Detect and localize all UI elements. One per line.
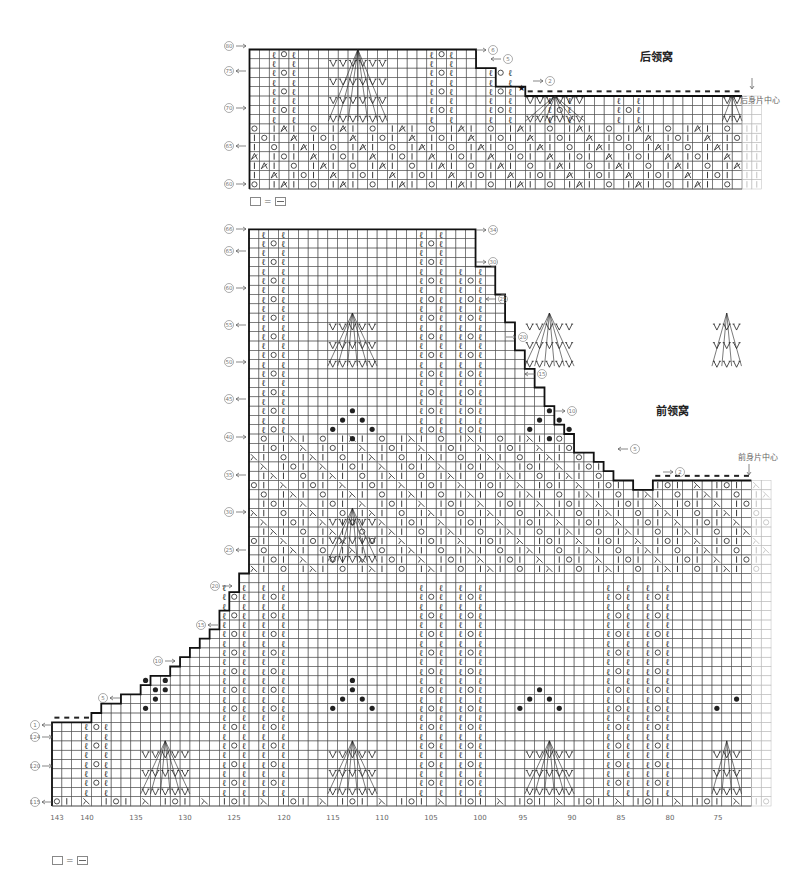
- svg-text:ℓ: ℓ: [489, 78, 493, 88]
- svg-text:ℓ: ℓ: [459, 313, 463, 323]
- svg-text:ℓ: ℓ: [84, 760, 88, 770]
- svg-text:ℓ: ℓ: [478, 676, 482, 686]
- svg-text:ℓ: ℓ: [419, 713, 423, 723]
- svg-text:ℓ: ℓ: [419, 741, 423, 751]
- svg-text:ℓ: ℓ: [439, 685, 443, 695]
- svg-text:ℓ: ℓ: [449, 59, 453, 69]
- svg-text:ℓ: ℓ: [478, 760, 482, 770]
- svg-text:ℓ: ℓ: [222, 657, 226, 667]
- svg-text:ℓ: ℓ: [419, 676, 423, 686]
- svg-text:ℓ: ℓ: [242, 657, 246, 667]
- svg-text:ℓ: ℓ: [459, 676, 463, 686]
- svg-text:ℓ: ℓ: [272, 115, 276, 125]
- svg-text:ℓ: ℓ: [281, 592, 285, 602]
- svg-text:ℓ: ℓ: [84, 778, 88, 788]
- svg-text:ℓ: ℓ: [281, 713, 285, 723]
- svg-text:ℓ: ℓ: [242, 788, 246, 798]
- svg-text:ℓ: ℓ: [84, 722, 88, 732]
- svg-text:ℓ: ℓ: [419, 667, 423, 677]
- svg-text:ℓ: ℓ: [419, 332, 423, 342]
- svg-text:ℓ: ℓ: [262, 713, 266, 723]
- svg-text:ℓ: ℓ: [419, 360, 423, 370]
- svg-text:135: 135: [129, 814, 142, 822]
- svg-text:ℓ: ℓ: [281, 369, 285, 379]
- svg-text:ℓ: ℓ: [626, 741, 630, 751]
- svg-text:ℓ: ℓ: [281, 341, 285, 351]
- svg-text:ℓ: ℓ: [459, 760, 463, 770]
- svg-text:ℓ: ℓ: [478, 629, 482, 639]
- svg-text:124: 124: [30, 734, 41, 740]
- svg-text:ℓ: ℓ: [272, 50, 276, 60]
- svg-text:ℓ: ℓ: [459, 620, 463, 630]
- svg-text:ℓ: ℓ: [292, 105, 296, 115]
- svg-text:ℓ: ℓ: [646, 629, 650, 639]
- svg-text:55: 55: [226, 322, 233, 328]
- svg-text:ℓ: ℓ: [439, 788, 443, 798]
- svg-text:65: 65: [226, 143, 233, 149]
- svg-text:ℓ: ℓ: [419, 388, 423, 398]
- svg-text:ℓ: ℓ: [606, 713, 610, 723]
- svg-text:ℓ: ℓ: [262, 378, 266, 388]
- svg-text:ℓ: ℓ: [478, 304, 482, 314]
- svg-text:ℓ: ℓ: [626, 611, 630, 621]
- svg-text:ℓ: ℓ: [281, 425, 285, 435]
- back-center-label: 后身片中心: [740, 94, 780, 105]
- svg-text:ℓ: ℓ: [281, 388, 285, 398]
- svg-text:ℓ: ℓ: [439, 732, 443, 742]
- svg-text:ℓ: ℓ: [419, 369, 423, 379]
- svg-text:ℓ: ℓ: [449, 68, 453, 78]
- svg-text:ℓ: ℓ: [459, 778, 463, 788]
- svg-text:ℓ: ℓ: [281, 732, 285, 742]
- svg-text:ℓ: ℓ: [281, 648, 285, 658]
- legend-equals: =: [66, 855, 74, 865]
- svg-text:ℓ: ℓ: [419, 769, 423, 779]
- svg-text:ℓ: ℓ: [646, 620, 650, 630]
- svg-text:ℓ: ℓ: [104, 750, 108, 760]
- svg-text:ℓ: ℓ: [439, 360, 443, 370]
- svg-text:ℓ: ℓ: [222, 760, 226, 770]
- svg-text:ℓ: ℓ: [449, 78, 453, 88]
- svg-text:ℓ: ℓ: [222, 778, 226, 788]
- svg-text:140: 140: [80, 814, 93, 822]
- svg-text:ℓ: ℓ: [626, 695, 630, 705]
- svg-text:ℓ: ℓ: [665, 629, 669, 639]
- svg-text:ℓ: ℓ: [478, 769, 482, 779]
- svg-text:ℓ: ℓ: [419, 267, 423, 277]
- svg-text:ℓ: ℓ: [281, 676, 285, 686]
- svg-text:ℓ: ℓ: [478, 397, 482, 407]
- svg-text:ℓ: ℓ: [646, 695, 650, 705]
- svg-text:ℓ: ℓ: [665, 695, 669, 705]
- svg-text:ℓ: ℓ: [281, 360, 285, 370]
- svg-text:ℓ: ℓ: [459, 592, 463, 602]
- svg-text:ℓ: ℓ: [459, 285, 463, 295]
- svg-text:ℓ: ℓ: [419, 285, 423, 295]
- svg-text:ℓ: ℓ: [449, 105, 453, 115]
- svg-text:65: 65: [226, 248, 233, 254]
- svg-text:75: 75: [226, 68, 233, 74]
- svg-text:105: 105: [424, 814, 437, 822]
- legend-equals: =: [264, 196, 272, 206]
- svg-text:ℓ: ℓ: [419, 313, 423, 323]
- svg-text:ℓ: ℓ: [606, 592, 610, 602]
- svg-text:20: 20: [212, 583, 219, 589]
- svg-text:ℓ: ℓ: [242, 778, 246, 788]
- svg-text:10: 10: [569, 408, 576, 414]
- svg-text:ℓ: ℓ: [222, 648, 226, 658]
- svg-text:85: 85: [617, 814, 626, 822]
- svg-text:ℓ: ℓ: [222, 713, 226, 723]
- svg-text:ℓ: ℓ: [478, 369, 482, 379]
- svg-text:ℓ: ℓ: [459, 722, 463, 732]
- svg-text:ℓ: ℓ: [665, 741, 669, 751]
- svg-text:ℓ: ℓ: [646, 611, 650, 621]
- svg-text:ℓ: ℓ: [281, 295, 285, 305]
- svg-text:ℓ: ℓ: [478, 583, 482, 593]
- svg-text:40: 40: [226, 434, 233, 440]
- svg-text:ℓ: ℓ: [262, 676, 266, 686]
- svg-text:ℓ: ℓ: [281, 350, 285, 360]
- svg-text:ℓ: ℓ: [242, 685, 246, 695]
- svg-text:ℓ: ℓ: [478, 341, 482, 351]
- svg-text:ℓ: ℓ: [478, 276, 482, 286]
- svg-text:ℓ: ℓ: [419, 397, 423, 407]
- svg-text:ℓ: ℓ: [439, 257, 443, 267]
- svg-text:ℓ: ℓ: [281, 397, 285, 407]
